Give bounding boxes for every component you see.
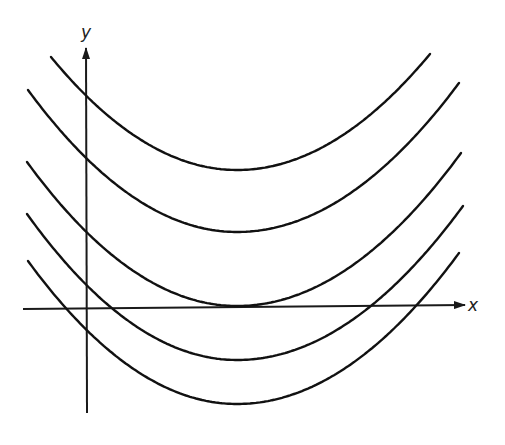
x-axis-label: x: [467, 295, 479, 315]
parabola-2: [28, 83, 459, 232]
y-axis-label: y: [80, 22, 92, 42]
parabola-family-diagram: y x: [0, 0, 505, 445]
parabola-1: [51, 54, 430, 170]
parabola-curves: [27, 54, 463, 404]
parabola-5: [28, 253, 459, 404]
